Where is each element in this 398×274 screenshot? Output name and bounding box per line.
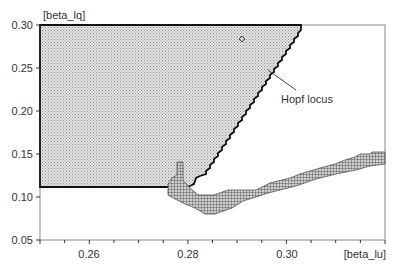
- x-axis-title: [beta_lu]: [344, 248, 386, 260]
- svg-text:0.26: 0.26: [78, 248, 99, 260]
- svg-text:0.30: 0.30: [276, 248, 297, 260]
- svg-text:0.25: 0.25: [12, 62, 33, 74]
- y-axis-labels: 0.30 0.25 0.20 0.15 0.10 0.05: [12, 19, 33, 246]
- svg-text:0.15: 0.15: [12, 148, 33, 160]
- phase-diagram-chart: Hopf locus 0.30 0.25 0.20 0.15 0.10 0.05…: [0, 0, 398, 274]
- svg-text:0.28: 0.28: [177, 248, 198, 260]
- svg-text:0.20: 0.20: [12, 105, 33, 117]
- x-axis-ticks: [40, 240, 385, 244]
- svg-text:0.10: 0.10: [12, 191, 33, 203]
- svg-text:0.05: 0.05: [12, 234, 33, 246]
- hopf-locus-label: Hopf locus: [281, 93, 333, 105]
- x-axis-labels: 0.26 0.28 0.30: [78, 248, 297, 260]
- y-axis-title: [beta_lq]: [43, 9, 85, 21]
- svg-text:0.30: 0.30: [12, 19, 33, 31]
